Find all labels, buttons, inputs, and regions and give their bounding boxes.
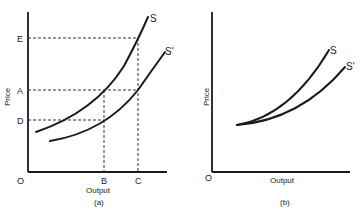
supply-curve-s [36, 17, 148, 132]
x-tick-c: C [135, 176, 142, 186]
panel-a: S S' E A D B C O Price Output (a) [3, 12, 174, 207]
y-tick-d: D [17, 116, 24, 126]
x-axis-label: Output [86, 186, 111, 195]
panel-b: S S' O Price Output (b) [202, 12, 355, 207]
y-axis-label: Price [202, 87, 211, 106]
panel-caption: (a) [94, 198, 104, 207]
supply-curve-s-prime [50, 52, 165, 141]
curve-label-s-prime: S' [346, 61, 355, 72]
supply-curves-figure: S S' E A D B C O Price Output (a) S S' O… [0, 0, 360, 220]
panel-caption: (b) [280, 198, 290, 207]
origin-label: O [17, 176, 24, 186]
y-tick-a: A [17, 86, 23, 96]
curve-label-s-prime: S' [165, 46, 174, 57]
curve-label-s: S [330, 45, 337, 56]
curve-label-s: S [150, 13, 157, 24]
y-axis-label: Price [3, 87, 12, 106]
supply-curve-s-prime [237, 67, 345, 125]
x-axis-label: Output [270, 176, 295, 185]
origin-label: O [205, 173, 212, 183]
x-tick-b: B [101, 176, 107, 186]
y-tick-e: E [17, 34, 23, 44]
